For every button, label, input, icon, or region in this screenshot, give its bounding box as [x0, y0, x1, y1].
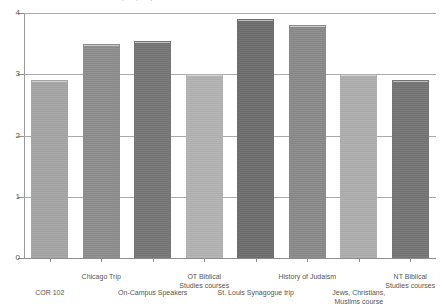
category-tick — [50, 258, 51, 262]
x-axis-label: COR 102 — [35, 289, 64, 298]
y-axis-label-2: 2 — [16, 132, 20, 140]
bar-highlight — [135, 42, 170, 43]
x-axis-label: OT BiblicalStudies courses — [179, 273, 229, 290]
bar-highlight — [290, 26, 325, 27]
x-axis-label-line: Jews, Christians, — [332, 289, 385, 298]
bar-highlight — [341, 75, 376, 76]
bar — [83, 44, 120, 258]
bar-highlight — [393, 81, 428, 82]
bar-highlight — [84, 45, 119, 46]
x-axis-label-line: Chicago Trip — [82, 273, 121, 282]
plot-area: 01234 COR 102Chicago TripOn-Campus Speak… — [24, 13, 436, 258]
x-axis-label-line: St. Louis Synagogue trip — [218, 289, 294, 298]
bar — [186, 74, 223, 258]
x-axis-label: St. Louis Synagogue trip — [218, 289, 294, 298]
y-axis-label-4: 4 — [16, 9, 20, 17]
bar-highlight — [32, 81, 67, 82]
category-tick — [359, 258, 360, 262]
gridline-4 — [24, 13, 436, 14]
bar — [289, 25, 326, 258]
bar — [134, 41, 171, 258]
category-tick — [256, 258, 257, 262]
x-axis-label: On-Campus Speakers — [118, 289, 187, 298]
category-tick — [153, 258, 154, 262]
x-axis-label-line: Muslims course — [332, 298, 385, 306]
x-axis-label-line: NT Biblical — [385, 273, 435, 282]
y-axis-label-0: 0 — [16, 254, 20, 262]
bar-highlight — [238, 20, 273, 21]
category-tick — [410, 258, 411, 262]
x-axis-label: Jews, Christians,Muslims course — [332, 289, 385, 306]
bar-highlight — [187, 75, 222, 76]
x-axis-label: NT BiblicalStudies courses — [385, 273, 435, 290]
category-tick — [307, 258, 308, 262]
x-axis-label: Chicago Trip — [82, 273, 121, 282]
bar — [31, 80, 68, 258]
bar — [340, 74, 377, 258]
x-axis-label-line: Studies courses — [385, 282, 435, 291]
bar — [392, 80, 429, 258]
category-tick — [204, 258, 205, 262]
y-axis-label-3: 3 — [16, 70, 20, 78]
chart-title-clipped: Student self-assessment ratings by exper… — [8, 0, 183, 1]
y-axis-label-1: 1 — [16, 193, 20, 201]
x-axis-label-line: History of Judaism — [278, 273, 336, 282]
x-axis-label-line: OT Biblical — [179, 273, 229, 282]
x-axis-label: History of Judaism — [278, 273, 336, 282]
x-axis-label-line: On-Campus Speakers — [118, 289, 187, 298]
category-tick — [101, 258, 102, 262]
gridline-0 — [24, 258, 436, 259]
x-axis-label-line: COR 102 — [35, 289, 64, 298]
bar — [237, 19, 274, 258]
